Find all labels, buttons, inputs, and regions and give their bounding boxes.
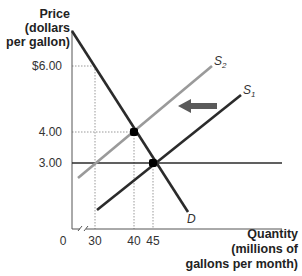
s2-label: S2 xyxy=(214,54,226,70)
s1-label: S1 xyxy=(243,83,255,99)
equilibrium-point-new xyxy=(130,128,138,136)
plot-area xyxy=(0,0,302,276)
equilibrium-point-original xyxy=(149,159,157,167)
supply-curve-s2 xyxy=(78,66,212,178)
supply-curve-s1 xyxy=(97,95,241,210)
shift-arrow-icon xyxy=(178,99,217,113)
d-label: D xyxy=(187,212,196,226)
